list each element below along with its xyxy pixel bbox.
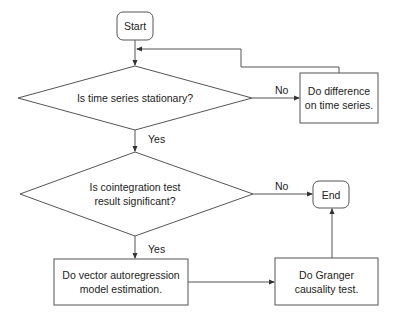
cointegration-label-line1: Is cointegration test [55,180,215,194]
difference-label-line2: on time series. [300,98,378,112]
var-label-line1: Do vector autoregression [54,268,188,282]
cointegration-decision: Is cointegration test result significant… [55,180,215,208]
var-node: Do vector autoregression model estimatio… [54,268,188,296]
end-label: End [322,189,341,201]
edge-label-cointegration-yes: Yes [148,243,165,255]
edge-label-stationary-no: No [275,84,288,96]
edge-difference-loop [137,49,339,73]
var-label-line2: model estimation. [54,282,188,296]
stationary-label: Is time series stationary? [77,92,193,104]
difference-label-line1: Do difference [300,84,378,98]
start-label: Start [124,20,146,32]
difference-node: Do difference on time series. [300,84,378,112]
cointegration-label-line2: result significant? [55,194,215,208]
granger-node: Do Granger causality test. [275,268,378,296]
granger-label-line2: causality test. [275,282,378,296]
stationary-decision: Is time series stationary? [35,91,235,105]
edge-label-cointegration-no: No [275,180,288,192]
granger-label-line1: Do Granger [275,268,378,282]
start-node: Start [117,19,153,33]
edge-label-stationary-yes: Yes [148,133,165,145]
end-node: End [313,188,349,202]
